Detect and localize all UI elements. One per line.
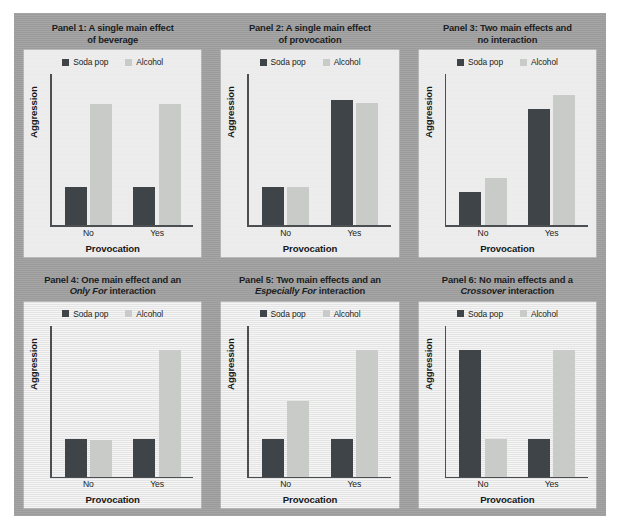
bar-alcohol-no: [485, 439, 507, 477]
bar-soda-pop-no: [459, 192, 481, 225]
chart-legend: Soda pop Alcohol: [221, 57, 398, 67]
x-axis-ticks: No Yes: [251, 479, 388, 491]
x-tick-yes: Yes: [128, 228, 186, 238]
bar-alcohol-no: [485, 178, 507, 225]
axes: [247, 326, 390, 478]
bar-group-no: [59, 326, 117, 477]
x-axis-line: [247, 477, 390, 478]
legend-entry-alcohol: Alcohol: [323, 57, 361, 67]
panel-3: Panel 3: Two main effects and no interac…: [409, 13, 606, 265]
bar-soda-pop-yes: [528, 109, 550, 225]
y-axis-line: [50, 74, 52, 226]
y-axis-label: Aggression: [423, 86, 434, 138]
soda-pop-swatch-icon: [457, 59, 464, 66]
x-tick-no: No: [454, 228, 512, 238]
bar-soda-pop-yes: [331, 439, 353, 477]
soda-pop-swatch-icon: [62, 59, 69, 66]
y-axis-line: [247, 74, 249, 226]
panel-title: Panel 2: A single main effect of provoca…: [221, 22, 398, 45]
legend-label-alcohol: Alcohol: [531, 309, 558, 319]
plot-card: Soda pop Alcohol Aggression: [221, 50, 398, 256]
x-axis-line: [50, 225, 193, 226]
bar-group-no: [454, 74, 512, 225]
axes: [50, 74, 193, 226]
panel-title-line2-plain: of provocation: [278, 34, 341, 45]
x-axis-label: Provocation: [221, 494, 398, 505]
axes: [247, 74, 390, 226]
y-axis-label: Aggression: [225, 86, 236, 138]
chart-legend: Soda pop Alcohol: [419, 309, 596, 319]
legend-entry-soda-pop: Soda pop: [457, 309, 503, 319]
bar-group-no: [59, 74, 117, 225]
x-axis-line: [445, 477, 588, 478]
x-axis-ticks: No Yes: [449, 479, 586, 491]
soda-pop-swatch-icon: [62, 310, 69, 317]
axes: [445, 74, 588, 226]
bar-group-yes: [523, 74, 581, 225]
panel-title-line1: Panel 4: One main effect and an: [44, 274, 181, 285]
legend-entry-alcohol: Alcohol: [125, 309, 163, 319]
panel-title: Panel 6: No main effects and a Crossover…: [419, 274, 596, 297]
alcohol-swatch-icon: [520, 59, 527, 66]
panel-title-line1: Panel 2: A single main effect: [249, 22, 371, 33]
x-tick-no: No: [454, 479, 512, 489]
plot-card: Soda pop Alcohol Aggression: [419, 50, 596, 256]
bar-soda-pop-no: [262, 187, 284, 225]
bar-soda-pop-yes: [528, 439, 550, 477]
y-axis-label: Aggression: [225, 338, 236, 390]
y-axis-line: [445, 326, 447, 478]
chart-legend: Soda pop Alcohol: [419, 57, 596, 67]
panel-title-line1: Panel 5: Two main effects and an: [239, 274, 381, 285]
soda-pop-swatch-icon: [260, 59, 267, 66]
bar-group-no: [257, 74, 315, 225]
plot-card: Soda pop Alcohol Aggression: [419, 302, 596, 508]
bar-group-yes: [128, 74, 186, 225]
panel-title-line2-tail: interaction: [316, 285, 365, 296]
bar-alcohol-yes: [159, 104, 181, 225]
bar-alcohol-yes: [553, 95, 575, 225]
bar-alcohol-no: [287, 401, 309, 476]
bar-group-yes: [523, 326, 581, 477]
bar-soda-pop-no: [65, 439, 87, 477]
legend-entry-soda-pop: Soda pop: [457, 57, 503, 67]
legend-label-soda-pop: Soda pop: [271, 309, 306, 319]
bar-soda-pop-yes: [331, 100, 353, 225]
bars-layer: [449, 74, 586, 225]
panel-grid: Panel 1: A single main effect of beverag…: [14, 13, 606, 516]
chart-legend: Soda pop Alcohol: [24, 57, 201, 67]
panel-title-line2-plain: of beverage: [87, 34, 138, 45]
x-axis-label: Provocation: [24, 243, 201, 254]
legend-entry-soda-pop: Soda pop: [260, 309, 306, 319]
y-axis-line: [445, 74, 447, 226]
y-axis-line: [50, 326, 52, 478]
x-tick-yes: Yes: [128, 479, 186, 489]
x-axis-line: [445, 225, 588, 226]
legend-label-alcohol: Alcohol: [334, 57, 361, 67]
panel-2: Panel 2: A single main effect of provoca…: [211, 13, 408, 265]
x-tick-no: No: [257, 479, 315, 489]
panel-title-line2-tail: interaction: [107, 285, 156, 296]
bar-alcohol-yes: [553, 350, 575, 477]
bar-group-no: [454, 326, 512, 477]
legend-label-alcohol: Alcohol: [531, 57, 558, 67]
x-tick-yes: Yes: [523, 228, 581, 238]
x-axis-label: Provocation: [221, 243, 398, 254]
x-tick-yes: Yes: [325, 479, 383, 489]
axes: [50, 326, 193, 478]
legend-entry-alcohol: Alcohol: [520, 57, 558, 67]
alcohol-swatch-icon: [125, 59, 132, 66]
panel-5: Panel 5: Two main effects and an Especia…: [211, 265, 408, 517]
panel-title-line1: Panel 3: Two main effects and: [443, 22, 572, 33]
x-axis-line: [50, 477, 193, 478]
bars-layer: [54, 74, 191, 225]
x-axis-ticks: No Yes: [54, 228, 191, 240]
panel-title-line1: Panel 1: A single main effect: [52, 22, 174, 33]
x-tick-no: No: [59, 228, 117, 238]
legend-label-soda-pop: Soda pop: [468, 309, 503, 319]
legend-entry-soda-pop: Soda pop: [62, 309, 108, 319]
x-axis-label: Provocation: [419, 243, 596, 254]
bars-layer: [54, 326, 191, 477]
chart-legend: Soda pop Alcohol: [24, 309, 201, 319]
x-axis-line: [247, 225, 390, 226]
soda-pop-swatch-icon: [457, 310, 464, 317]
